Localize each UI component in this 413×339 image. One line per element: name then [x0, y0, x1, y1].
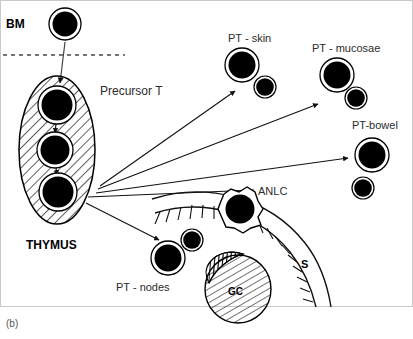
- pt-mucosae-large-cell: [320, 58, 354, 92]
- thymus-label: THYMUS: [26, 238, 77, 252]
- pt-skin-large-cell: [225, 48, 259, 82]
- anlc-cell: [218, 187, 263, 233]
- bone-marrow-stem-cell: [49, 8, 81, 40]
- arrow-thymus-to-pt-nodes: [86, 203, 159, 240]
- pt-nodes-label: PT - nodes: [116, 281, 170, 293]
- anlc-label: ANLC: [258, 185, 287, 197]
- pt-nodes-small-cell: [181, 229, 203, 251]
- thymocyte-upper: [38, 86, 76, 124]
- pt-bowel-label: PT-bowel: [352, 119, 398, 131]
- pt-skin-small-cell: [254, 76, 276, 98]
- pt-bowel-small-cell: [352, 177, 374, 199]
- figure-caption: (b): [6, 318, 18, 329]
- precursor-t-label: Precursor T: [100, 84, 163, 98]
- figure-container: BM THYMUS Precursor T: [0, 0, 413, 339]
- arrow-thymus-to-pt-skin: [100, 91, 235, 186]
- pt-mucosae-label: PT - mucosae: [312, 42, 380, 54]
- pt-mucosae-small-cell: [345, 87, 367, 109]
- lymphocyte-trafficking-diagram: BM THYMUS Precursor T: [0, 0, 413, 339]
- thymocyte-lower: [39, 173, 77, 211]
- arrow-thymus-to-pt-mucosae: [98, 104, 318, 189]
- s-label: S: [301, 258, 308, 270]
- pt-bowel-large-cell: [355, 138, 389, 172]
- pt-nodes-large-cell: [151, 241, 185, 275]
- pt-skin-label: PT - skin: [228, 32, 271, 44]
- gc-label: GC: [228, 286, 243, 297]
- thymocyte-middle: [37, 132, 73, 168]
- bm-label: BM: [6, 17, 25, 31]
- thymus-emigration-arrows: [86, 91, 348, 240]
